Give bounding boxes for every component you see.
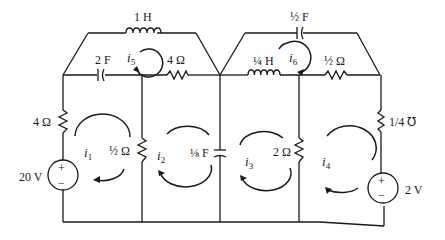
inductor-coil-icon bbox=[248, 70, 280, 75]
circular-arrow-icon bbox=[96, 169, 124, 181]
resistor-zigzag-icon bbox=[325, 71, 347, 79]
capacitor-plate bbox=[103, 69, 105, 81]
circular-arrow-icon bbox=[160, 165, 211, 187]
mesh-i4-label: i4 bbox=[322, 154, 331, 171]
resistor-4ohm-top-label: 4 Ω bbox=[167, 53, 185, 67]
circular-arrow-icon bbox=[242, 168, 291, 191]
capacitor-half-F: ½ F bbox=[290, 10, 309, 39]
circular-arrow-icon bbox=[138, 49, 163, 77]
mesh-i1-label: i1 bbox=[84, 145, 92, 162]
arrowhead-icon bbox=[133, 66, 140, 73]
inductor-coil-icon bbox=[126, 28, 161, 33]
wire bbox=[320, 222, 384, 226]
mesh-i5-label: i5 bbox=[127, 50, 136, 67]
resistor-4ohm-left-label: 4 Ω bbox=[33, 115, 51, 129]
circular-arrow-tail bbox=[279, 43, 287, 49]
voltage-source-2V-label: 2 V bbox=[405, 183, 423, 197]
resistor-half-ohm-left: ½ Ω bbox=[109, 138, 146, 162]
resistor-4ohm-top: 4 Ω bbox=[167, 53, 188, 79]
capacitor-2F: 2 F bbox=[95, 53, 111, 81]
circular-arrow-icon bbox=[328, 188, 358, 193]
mesh-i5: i5 bbox=[127, 49, 163, 77]
inductor-quarter-H: ¼ H bbox=[248, 54, 280, 75]
resistor-half-ohm-right: ½ Ω bbox=[324, 54, 347, 79]
voltage-source-2V: + − 2 V bbox=[368, 160, 423, 203]
resistor-4ohm-left: 4 Ω bbox=[33, 110, 67, 133]
circular-arrow-icon bbox=[167, 126, 209, 135]
voltage-source-20V: + − 20 V bbox=[19, 160, 78, 190]
minus-sign: − bbox=[378, 188, 385, 202]
wire bbox=[196, 33, 220, 75]
wire bbox=[357, 33, 380, 75]
mesh-i6-label: i6 bbox=[289, 50, 298, 67]
mesh-i6: i6 bbox=[279, 41, 311, 76]
resistor-zigzag-icon bbox=[295, 138, 303, 162]
capacitor-half-F-label: ½ F bbox=[290, 10, 309, 24]
voltage-source-20V-label: 20 V bbox=[19, 170, 43, 184]
plus-sign: + bbox=[378, 174, 385, 188]
capacitor-plate bbox=[302, 27, 304, 39]
inductor-1H-label: 1 H bbox=[134, 10, 152, 24]
resistor-zigzag-icon bbox=[378, 110, 384, 132]
inductor-quarter-H-label: ¼ H bbox=[253, 54, 274, 68]
resistor-zigzag-icon bbox=[59, 110, 67, 133]
capacitor-eighth-F-label: ⅛ F bbox=[190, 146, 209, 160]
circular-arrow-icon bbox=[75, 114, 130, 137]
circuit-diagram: 1 H 2 F 4 Ω 4 Ω + − 20 V ½ Ω ⅛ F ½ F bbox=[0, 0, 445, 240]
resistor-half-ohm-right-label: ½ Ω bbox=[324, 54, 345, 68]
circular-arrow-icon bbox=[327, 126, 376, 160]
mesh-i3-label: i3 bbox=[245, 154, 254, 171]
minus-sign: − bbox=[58, 176, 65, 190]
resistor-2ohm: 2 Ω bbox=[273, 138, 303, 162]
conductance-quarter-mho-label: 1/4 ℧ bbox=[389, 115, 416, 129]
mesh-i3: i3 bbox=[240, 132, 291, 191]
inductor-1H: 1 H bbox=[126, 10, 161, 33]
mesh-i2-label: i2 bbox=[157, 148, 165, 165]
capacitor-2F-label: 2 F bbox=[95, 53, 111, 67]
resistor-2ohm-label: 2 Ω bbox=[273, 145, 291, 159]
resistor-zigzag-icon bbox=[138, 138, 146, 162]
conductance-quarter-mho: 1/4 ℧ bbox=[378, 110, 416, 132]
wire bbox=[220, 33, 245, 75]
circular-arrow-icon bbox=[240, 132, 283, 145]
arrowhead-icon bbox=[93, 176, 100, 183]
wire bbox=[63, 33, 88, 75]
plus-sign: + bbox=[58, 161, 65, 175]
resistor-zigzag-icon bbox=[167, 71, 188, 79]
resistor-half-ohm-left-label: ½ Ω bbox=[109, 144, 130, 158]
